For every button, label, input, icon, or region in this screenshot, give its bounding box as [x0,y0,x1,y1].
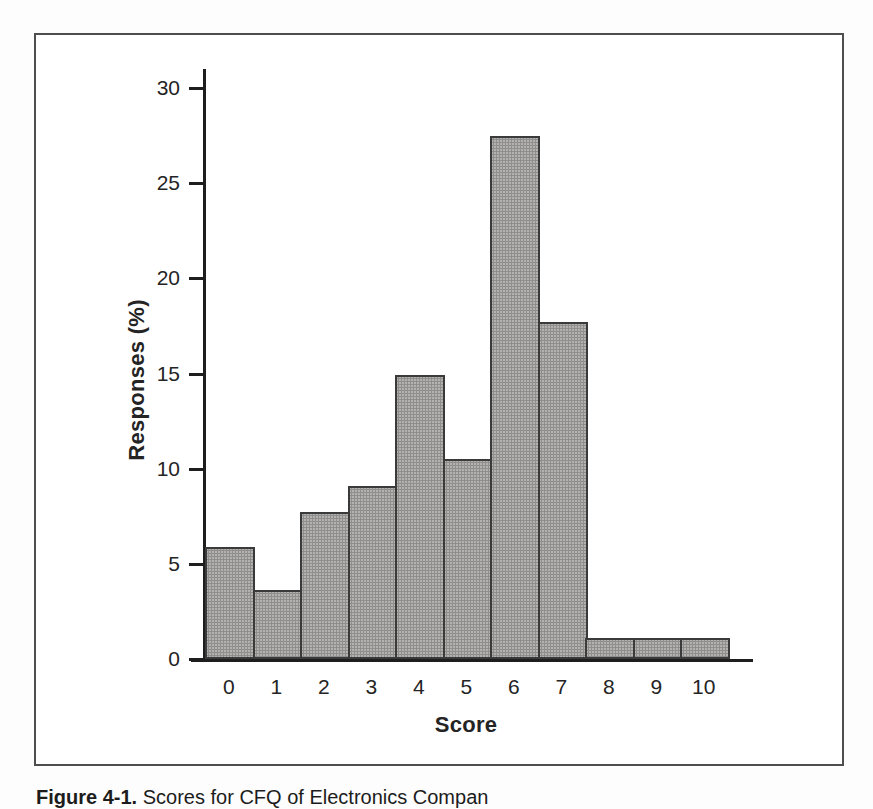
y-tick-label: 15 [126,363,180,385]
caption-text: Scores for CFQ of Electronics Compan [143,786,489,808]
bar-score-6 [490,136,540,659]
bar-score-10 [680,638,730,659]
figure-frame: Responses (%) 051015202530 012345678910 … [34,33,844,766]
bar-score-0 [205,547,255,659]
x-tick-label: 3 [347,675,395,699]
x-tick-label: 0 [205,675,253,699]
bar-score-2 [300,512,350,659]
y-tick-label: 25 [126,172,180,194]
caption-label: Figure 4-1. [36,786,137,808]
bar-score-8 [585,638,635,659]
y-tick-label: 10 [126,458,180,480]
bar-score-4 [395,375,445,659]
y-tick-mark [189,658,204,661]
y-tick-mark [189,563,204,566]
y-tick-label: 30 [126,77,180,99]
y-tick-mark [189,277,204,280]
x-tick-label: 4 [395,675,443,699]
bar-score-7 [538,322,588,659]
x-tick-label: 2 [300,675,348,699]
y-tick-mark [189,182,204,185]
x-tick-label: 7 [537,675,585,699]
bar-score-3 [348,486,398,659]
y-tick-mark [189,87,204,90]
x-tick-label: 8 [585,675,633,699]
figure-caption: Figure 4-1. Scores for CFQ of Electronic… [36,786,488,809]
x-axis-label: Score [435,712,498,738]
y-tick-mark [189,373,204,376]
y-tick-label: 20 [126,267,180,289]
x-axis-line [191,659,753,662]
bar-score-1 [253,590,303,659]
y-tick-label: 5 [126,553,180,575]
x-tick-label: 1 [252,675,300,699]
x-tick-label: 10 [680,675,728,699]
bar-score-9 [633,638,683,659]
y-tick-label: 0 [126,648,180,670]
x-tick-label: 5 [442,675,490,699]
bar-score-5 [443,459,493,659]
bar-chart: Responses (%) 051015202530 012345678910 … [36,35,842,764]
x-tick-label: 9 [632,675,680,699]
x-tick-label: 6 [490,675,538,699]
y-tick-mark [189,468,204,471]
